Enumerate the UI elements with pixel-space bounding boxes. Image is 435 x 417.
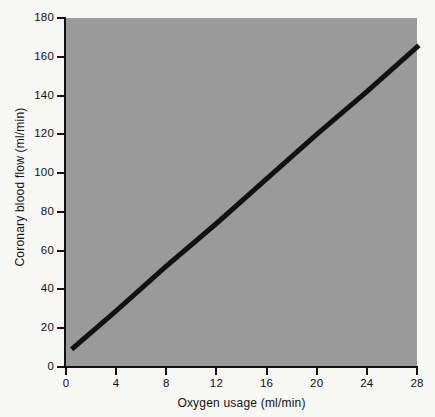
x-tick-mark [316, 367, 318, 375]
x-tick-mark [416, 367, 418, 375]
x-tick-label: 20 [297, 378, 337, 390]
x-tick-label: 8 [146, 378, 186, 390]
y-tick-mark [57, 95, 65, 97]
data-series-line [74, 47, 417, 348]
x-tick-mark [65, 367, 67, 375]
x-tick-label: 12 [196, 378, 236, 390]
y-tick-mark [57, 288, 65, 290]
x-tick-label: 24 [347, 378, 387, 390]
y-tick-mark [57, 366, 65, 368]
x-tick-label: 4 [96, 378, 136, 390]
x-tick-label: 0 [46, 378, 86, 390]
x-tick-mark [165, 367, 167, 375]
y-tick-mark [57, 172, 65, 174]
data-line-svg [66, 18, 417, 367]
y-tick-mark [57, 211, 65, 213]
y-tick-mark [57, 133, 65, 135]
y-tick-mark [57, 250, 65, 252]
x-axis-title: Oxygen usage (ml/min) [66, 396, 417, 410]
chart-figure: 020406080100120140160180 0481216202428 O… [0, 0, 435, 417]
x-tick-mark [366, 367, 368, 375]
y-tick-mark [57, 327, 65, 329]
x-tick-mark [266, 367, 268, 375]
plot-area [66, 18, 417, 367]
x-tick-label: 16 [247, 378, 287, 390]
y-tick-mark [57, 56, 65, 58]
x-tick-mark [215, 367, 217, 375]
y-tick-mark [57, 17, 65, 19]
x-tick-mark [115, 367, 117, 375]
y-axis-title: Coronary blood flow (ml/min) [13, 7, 27, 367]
x-tick-label: 28 [397, 378, 435, 390]
y-axis-line [64, 17, 66, 368]
